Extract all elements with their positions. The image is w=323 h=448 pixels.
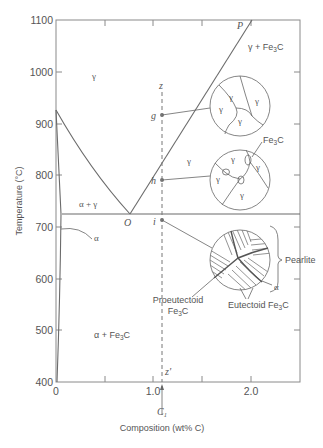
svg-text:400: 400 (35, 376, 53, 388)
svg-text:γ: γ (230, 154, 235, 164)
phase-diagram: 1100 1000 900 800 700 600 500 400 0 1.0 … (0, 0, 323, 448)
c1-label: C1 (157, 406, 167, 418)
svg-text:500: 500 (35, 324, 53, 336)
region-gamma-small: γ (186, 156, 191, 166)
svg-text:γ: γ (255, 162, 260, 172)
leader-h (162, 176, 210, 180)
acm-boundary (130, 20, 252, 214)
microstructure-austenite-fe3c: γ γ γ γ (210, 150, 270, 210)
pearlite-label: Pearlite (285, 255, 316, 265)
eutectoid-fe3c-label: Eutectoid Fe3C (228, 300, 289, 311)
svg-text:γ: γ (239, 190, 244, 200)
label-i: i (153, 216, 156, 227)
svg-text:900: 900 (35, 118, 53, 130)
svg-text:γ: γ (215, 174, 220, 184)
svg-text:2.0: 2.0 (244, 385, 259, 397)
svg-text:1000: 1000 (30, 66, 54, 78)
x-ticks (105, 20, 251, 382)
y-tick-labels: 1100 1000 900 800 700 600 500 400 (30, 14, 54, 388)
microstructure-pearlite (210, 225, 272, 292)
alpha-solvus (56, 110, 61, 382)
region-gamma-fe3c: γ + Fe3C (248, 42, 284, 53)
region-alpha-gamma: α + γ (79, 199, 97, 209)
microstructure-austenite: γ γ γ γ (210, 76, 270, 136)
fe3c-leader-top (252, 142, 262, 157)
label-O: O (124, 217, 131, 228)
svg-text:700: 700 (35, 221, 53, 233)
svg-text:1100: 1100 (30, 14, 53, 26)
c1-arrowhead (160, 384, 164, 390)
svg-text:600: 600 (35, 273, 53, 285)
alpha-pointer (262, 281, 272, 285)
y-axis-label: Temperature (°C) (14, 166, 24, 235)
fe3c-label-top: Fe3C (263, 135, 284, 146)
alpha-label-circle: α (274, 282, 279, 292)
x-axis-label: Composition (wt% C) (120, 423, 205, 433)
svg-text:γ: γ (228, 92, 233, 102)
proeutectoid-fe3c-label: Fe3C (168, 306, 189, 317)
alpha-leader (61, 228, 92, 239)
leader-g (162, 108, 210, 115)
region-alpha: α (94, 233, 99, 243)
svg-text:γ: γ (254, 96, 259, 106)
label-P: P (236, 20, 243, 31)
svg-text:γ: γ (237, 116, 242, 126)
svg-text:800: 800 (35, 169, 53, 181)
svg-text:0: 0 (53, 385, 59, 397)
label-h: h (151, 175, 156, 186)
region-gamma: γ (91, 71, 96, 81)
x-tick-labels: 0 1.0 2.0 (53, 385, 258, 397)
leader-i (162, 220, 212, 248)
label-z: z (158, 80, 163, 91)
label-g: g (151, 110, 156, 121)
svg-text:γ: γ (218, 104, 223, 114)
proeutectoid-label: Proeutectoid (153, 295, 204, 305)
label-z-prime: z' (164, 366, 172, 377)
eutectoid-leader-2 (248, 288, 253, 299)
svg-text:1.0: 1.0 (146, 385, 161, 397)
region-alpha-fe3c: α + Fe3C (94, 330, 131, 341)
